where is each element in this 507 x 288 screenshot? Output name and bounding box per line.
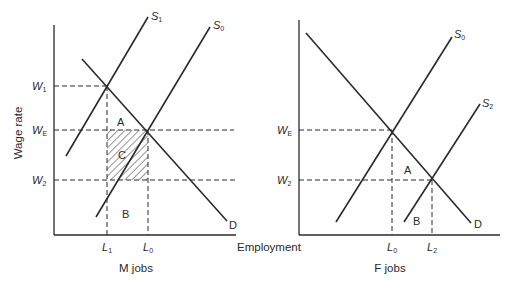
x-axis-label-employment: Employment bbox=[237, 241, 302, 253]
panel-title-f-jobs: F jobs bbox=[374, 262, 406, 274]
tick-w1: W1 bbox=[32, 80, 46, 93]
y-axis-label: Wage rate bbox=[12, 107, 24, 160]
labor-market-diagram: S1 S0 D A C B W1 WE W2 L1 L0 Wage rate M… bbox=[0, 0, 507, 288]
area-b-label: B bbox=[413, 215, 420, 227]
tick-l1: L1 bbox=[102, 241, 112, 254]
tick-w2: W2 bbox=[32, 174, 46, 187]
label-s1: S1 bbox=[151, 10, 162, 23]
label-s0: S0 bbox=[213, 19, 224, 32]
area-a-label: A bbox=[404, 164, 412, 176]
demand-curve-d bbox=[82, 59, 227, 221]
supply-curve-s0 bbox=[336, 37, 452, 222]
label-s2: S2 bbox=[482, 97, 493, 110]
label-s0: S0 bbox=[454, 28, 465, 41]
label-d: D bbox=[474, 218, 482, 230]
area-c-hatched bbox=[107, 130, 148, 180]
tick-we: WE bbox=[277, 124, 292, 137]
supply-curve-s0 bbox=[96, 27, 210, 217]
label-d: D bbox=[229, 219, 237, 231]
area-c-label: C bbox=[118, 149, 126, 161]
panel-title-m-jobs: M jobs bbox=[119, 262, 153, 274]
area-a-label: A bbox=[117, 116, 125, 128]
tick-w2: W2 bbox=[277, 174, 291, 187]
supply-curve-s2 bbox=[404, 104, 480, 222]
demand-curve-d bbox=[306, 33, 471, 223]
left-panel-m-jobs: S1 S0 D A C B W1 WE W2 L1 L0 Wage rate M… bbox=[12, 10, 237, 274]
tick-l0: L0 bbox=[143, 241, 153, 254]
right-panel-f-jobs: S0 S2 D A B WE W2 L0 L2 F jobs bbox=[277, 20, 500, 274]
tick-l2: L2 bbox=[427, 241, 437, 254]
tick-we: WE bbox=[32, 124, 47, 137]
area-b-label: B bbox=[122, 208, 129, 220]
tick-l0: L0 bbox=[387, 241, 397, 254]
